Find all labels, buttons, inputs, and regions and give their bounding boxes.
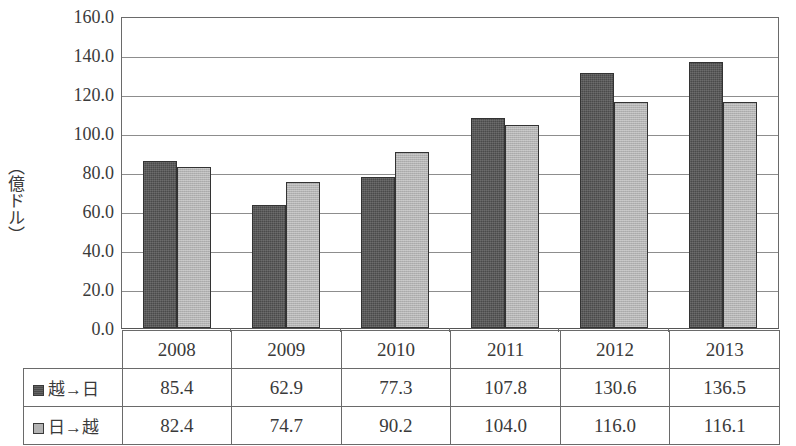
bar-日→越-2010[interactable] [395, 152, 429, 328]
bar-越→日-2012[interactable] [580, 73, 614, 328]
y-axis-tick-labels: 160.0140.0120.0100.080.060.040.020.00.0 [34, 0, 114, 340]
chart-figure: （億ドル） 160.0140.0120.0100.080.060.040.020… [0, 0, 796, 446]
table-header: 200820092010201120122013 [24, 331, 780, 369]
bar-group [559, 18, 668, 328]
table-value-cell: 104.0 [451, 407, 561, 445]
bar-group [341, 18, 450, 328]
y-axis-title: （億ドル） [0, 140, 30, 260]
y-axis-tick-label: 20.0 [34, 281, 114, 299]
table-year-header: 2011 [451, 331, 561, 369]
x-axis-tick [558, 328, 559, 332]
table-corner-cell [24, 331, 123, 369]
bar-日→越-2013[interactable] [723, 102, 757, 328]
bar-日→越-2009[interactable] [286, 182, 320, 328]
table-header-row: 200820092010201120122013 [24, 331, 780, 369]
table-year-header: 2010 [341, 331, 451, 369]
y-axis-tick-label: 100.0 [34, 125, 114, 143]
table-value-cell: 107.8 [451, 369, 561, 407]
light-square-icon [33, 423, 44, 434]
bar-日→越-2011[interactable] [505, 125, 539, 328]
x-axis-tick [668, 328, 669, 332]
legend-label: 越→日 [48, 380, 99, 399]
y-axis-title-text: （億ドル） [3, 158, 28, 243]
y-axis-tick-label: 140.0 [34, 47, 114, 65]
table-value-cell: 85.4 [122, 369, 232, 407]
table-value-cell: 136.5 [670, 369, 780, 407]
bar-越→日-2008[interactable] [143, 161, 177, 328]
table-value-cell: 77.3 [341, 369, 451, 407]
table-value-cell: 62.9 [232, 369, 342, 407]
table-value-cell: 116.1 [670, 407, 780, 445]
table-year-header: 2008 [122, 331, 232, 369]
x-axis-tick [340, 328, 341, 332]
table-year-header: 2013 [670, 331, 780, 369]
y-axis-tick-label: 60.0 [34, 203, 114, 221]
legend-label: 日→越 [48, 418, 99, 437]
table-value-cell: 82.4 [122, 407, 232, 445]
plot-area [121, 17, 779, 329]
bar-越→日-2011[interactable] [471, 118, 505, 328]
bar-日→越-2008[interactable] [177, 167, 211, 328]
legend-cell: 越→日 [24, 369, 123, 407]
table-value-cell: 116.0 [560, 407, 670, 445]
y-axis-tick-label: 80.0 [34, 164, 114, 182]
y-axis-tick-label: 120.0 [34, 86, 114, 104]
table-body: 越→日85.462.977.3107.8130.6136.5日→越82.474.… [24, 369, 780, 445]
dark-square-icon [33, 385, 44, 396]
legend-cell: 日→越 [24, 407, 123, 445]
x-axis-tick [449, 328, 450, 332]
bar-group [122, 18, 231, 328]
bar-越→日-2010[interactable] [361, 177, 395, 328]
bar-group [669, 18, 778, 328]
bar-越→日-2009[interactable] [252, 205, 286, 328]
table-value-cell: 130.6 [560, 369, 670, 407]
table-row: 日→越82.474.790.2104.0116.0116.1 [24, 407, 780, 445]
table-year-header: 2009 [232, 331, 342, 369]
bar-group [231, 18, 340, 328]
y-axis-tick-label: 160.0 [34, 8, 114, 26]
y-axis-tick-label: 40.0 [34, 242, 114, 260]
table-value-cell: 90.2 [341, 407, 451, 445]
table-row: 越→日85.462.977.3107.8130.6136.5 [24, 369, 780, 407]
bar-日→越-2012[interactable] [614, 102, 648, 328]
table-year-header: 2012 [560, 331, 670, 369]
bar-group [450, 18, 559, 328]
bar-越→日-2013[interactable] [689, 62, 723, 328]
x-axis-tick [230, 328, 231, 332]
bar-groups [122, 18, 778, 328]
table-value-cell: 74.7 [232, 407, 342, 445]
data-table: 200820092010201120122013 越→日85.462.977.3… [23, 330, 780, 445]
